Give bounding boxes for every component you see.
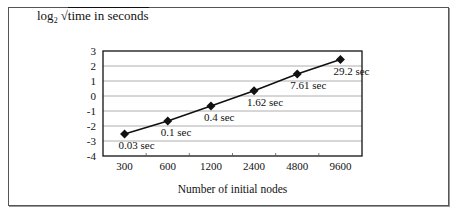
data-point-label: 1.62 sec [247,96,283,108]
diamond-marker-icon [336,55,345,64]
diamond-marker-icon [250,86,259,95]
diamond-marker-icon [293,70,302,79]
x-axis-label: Number of initial nodes [103,183,362,195]
data-point-label: 29.2 sec [333,65,369,77]
x-tick-label: 2400 [232,160,276,172]
data-point-label: 7.61 sec [290,79,326,91]
data-point-label: 0.1 sec [161,126,192,138]
x-tick-label: 1200 [189,160,233,172]
data-point-label: 0.03 sec [119,139,155,151]
diamond-marker-icon [163,116,172,125]
y-tick-label: 2 [76,60,96,72]
y-tick-label: -2 [76,120,96,132]
plot-area [0,0,456,214]
x-tick-label: 4800 [275,160,319,172]
x-tick-label: 9600 [318,160,362,172]
diamond-marker-icon [206,101,215,110]
y-tick-label: 0 [76,90,96,102]
y-tick-label: 3 [76,45,96,57]
diamond-marker-icon [120,129,129,138]
y-tick-label: 1 [76,75,96,87]
y-tick-label: -1 [76,105,96,117]
data-point-label: 0.4 sec [204,111,235,123]
y-tick-label: -4 [76,150,96,162]
x-tick-label: 300 [103,160,147,172]
x-tick-label: 600 [146,160,190,172]
y-tick-label: -3 [76,135,96,147]
